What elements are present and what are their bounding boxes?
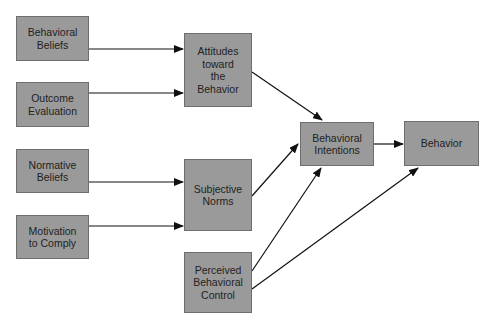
node-behavior: Behavior: [404, 121, 479, 166]
node-subjective-norms: Subjective Norms: [184, 159, 252, 231]
node-perceived-control: Perceived Behavioral Control: [184, 252, 252, 313]
node-behavioral-intentions: Behavioral Intentions: [300, 122, 374, 166]
node-normative-beliefs: Normative Beliefs: [16, 149, 89, 193]
node-behavioral-beliefs: Behavioral Beliefs: [16, 16, 89, 61]
arrow-control-to-behavior: [252, 168, 418, 289]
node-outcome-evaluation: Outcome Evaluation: [16, 82, 89, 127]
arrow-attitudes-to-intentions: [252, 72, 322, 120]
node-motivation-to-comply: Motivation to Comply: [16, 215, 89, 259]
theory-of-planned-behavior-diagram: Behavioral Beliefs Outcome Evaluation No…: [0, 0, 490, 328]
node-attitudes: Attitudes toward the Behavior: [184, 33, 252, 107]
arrow-norms-to-intentions: [252, 144, 298, 196]
